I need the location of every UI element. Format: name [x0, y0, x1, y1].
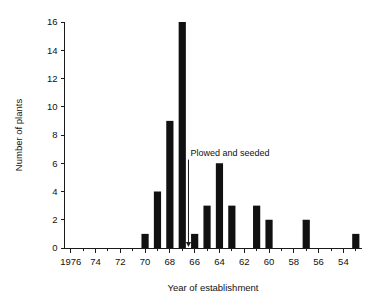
- x-tick-label: 1976: [60, 256, 81, 267]
- y-tick-label: 0: [52, 242, 57, 253]
- y-tick-label: 8: [52, 129, 57, 140]
- y-tick-label: 6: [52, 158, 57, 169]
- x-tick-label: 72: [115, 256, 126, 267]
- histogram-bar: [179, 22, 186, 248]
- y-tick-label: 14: [47, 45, 58, 56]
- histogram-bar: [191, 234, 198, 248]
- x-tick-label: 58: [289, 256, 300, 267]
- annotation-label: Plowed and seeded: [190, 148, 269, 158]
- x-tick-label: 70: [140, 256, 151, 267]
- histogram-bar: [154, 192, 161, 249]
- y-tick-label: 16: [47, 16, 58, 27]
- x-tick-label: 60: [264, 256, 275, 267]
- histogram-bar: [216, 163, 223, 248]
- histogram-bar: [253, 206, 260, 248]
- x-tick-label: 68: [165, 256, 176, 267]
- y-axis-title: Number of plants: [13, 99, 24, 172]
- x-tick-label: 66: [189, 256, 200, 267]
- y-tick-label: 10: [47, 101, 58, 112]
- x-tick-label: 74: [90, 256, 101, 267]
- x-tick-label: 64: [214, 256, 225, 267]
- histogram-bar: [265, 220, 272, 248]
- histogram-bar: [352, 234, 359, 248]
- histogram-bar: [203, 206, 210, 248]
- histogram-bar: [166, 121, 173, 248]
- y-tick-label: 4: [52, 186, 57, 197]
- histogram-bar: [303, 220, 310, 248]
- histogram-bar: [141, 234, 148, 248]
- x-tick-label: 62: [239, 256, 250, 267]
- chart-canvas: 0246810121416 19767472706866646260585654…: [0, 0, 370, 305]
- x-tick-label: 56: [313, 256, 324, 267]
- x-tick-label: 54: [338, 256, 349, 267]
- histogram-bar: [228, 206, 235, 248]
- x-axis-title: Year of establishment: [167, 282, 258, 293]
- histogram-figure: 0246810121416 19767472706866646260585654…: [0, 0, 370, 305]
- y-tick-label: 12: [47, 73, 58, 84]
- y-tick-label: 2: [52, 214, 57, 225]
